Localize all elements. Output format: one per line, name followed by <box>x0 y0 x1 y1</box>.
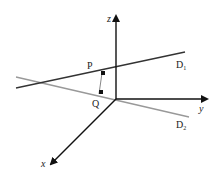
y-axis-label: y <box>198 103 204 114</box>
line-d2-label: D2 <box>176 119 186 131</box>
line-d2-label-sub: 2 <box>183 125 186 131</box>
x-axis-label: x <box>40 158 46 169</box>
point-q-label: Q <box>92 98 100 109</box>
line-d1-label-main: D <box>176 59 183 70</box>
z-axis-label: z <box>106 13 111 24</box>
diagram-canvas: z y x P Q D1 D2 <box>0 0 223 181</box>
x-axis <box>51 99 116 164</box>
line-d2-label-main: D <box>176 119 183 130</box>
right-angle-marker-p <box>101 71 105 75</box>
point-p-label: P <box>87 60 93 71</box>
right-angle-marker-q <box>99 90 103 94</box>
line-d1-label: D1 <box>176 59 186 71</box>
line-d1-label-sub: 1 <box>183 65 186 71</box>
